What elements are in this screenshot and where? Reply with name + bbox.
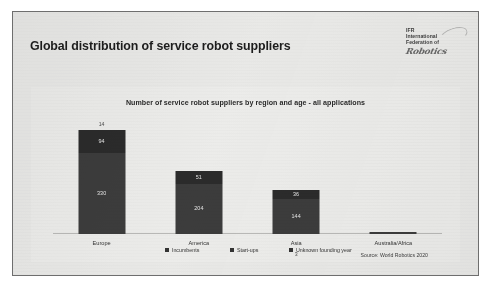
- bar-group-australia-africa: 3 7 Australia/Africa: [345, 121, 442, 234]
- bar-stack-america[interactable]: 2 51 204: [175, 171, 222, 234]
- bar-segment-australia-africa-incumbents[interactable]: [370, 232, 417, 234]
- bar-stack-europe[interactable]: 14 94 330: [78, 130, 125, 234]
- bar-label-america-incumbents: 204: [194, 206, 203, 211]
- bar-segment-america-startups[interactable]: 51: [175, 171, 222, 184]
- slide-frame: Global distribution of service robot sup…: [12, 11, 479, 276]
- bar-group-asia: 3 36 144 Asia: [248, 121, 345, 234]
- bar-label-europe-startups: 94: [99, 139, 105, 144]
- bar-label-asia-startups: 36: [293, 192, 299, 197]
- bar-segment-asia-incumbents[interactable]: 144: [273, 199, 320, 234]
- category-label-america: America: [189, 240, 210, 246]
- slide-title: Global distribution of service robot sup…: [30, 39, 290, 53]
- legend-swatch-incumbents: [165, 248, 169, 252]
- chart-panel: Number of service robot suppliers by reg…: [31, 87, 460, 262]
- legend-label-startups: Start-ups: [237, 247, 259, 253]
- legend-item-unknown-founding-year[interactable]: Unknown founding year: [289, 247, 351, 253]
- category-label-europe: Europe: [93, 240, 111, 246]
- source-note: Source: World Robotics 2020: [361, 252, 428, 258]
- legend-swatch-unknown-founding-year: [289, 248, 293, 252]
- bar-segment-america-incumbents[interactable]: 204: [175, 184, 222, 234]
- legend-item-startups[interactable]: Start-ups: [230, 247, 258, 253]
- bar-segment-europe-incumbents[interactable]: 330: [78, 153, 125, 234]
- bar-segment-europe-startups[interactable]: 94: [78, 130, 125, 153]
- category-label-australia-africa: Australia/Africa: [375, 240, 413, 246]
- legend-label-incumbents: Incumbents: [172, 247, 199, 253]
- chart-title: Number of service robot suppliers by reg…: [31, 99, 460, 107]
- plot-area: 14 94 330 Europe 2 51: [53, 121, 442, 234]
- bar-label-asia-incumbents: 144: [291, 214, 300, 219]
- bar-segment-asia-startups[interactable]: 36: [273, 190, 320, 199]
- bar-group-america: 2 51 204 America: [150, 121, 247, 234]
- bar-label-europe-unknown: 14: [99, 122, 105, 127]
- bar-stack-australia-africa[interactable]: 3 7: [370, 232, 417, 234]
- bar-group-europe: 14 94 330 Europe: [53, 121, 150, 234]
- legend-swatch-startups: [230, 248, 234, 252]
- bar-label-america-startups: 51: [196, 175, 202, 180]
- bar-stack-asia[interactable]: 3 36 144: [273, 190, 320, 234]
- ifr-logo: IFR International Federation of Robotics: [406, 27, 468, 57]
- legend-item-incumbents[interactable]: Incumbents: [165, 247, 199, 253]
- category-label-asia: Asia: [291, 240, 302, 246]
- bar-label-europe-incumbents: 330: [97, 191, 106, 196]
- legend-label-unknown-founding-year: Unknown founding year: [296, 247, 352, 253]
- logo-script-robotics: Robotics: [405, 46, 469, 56]
